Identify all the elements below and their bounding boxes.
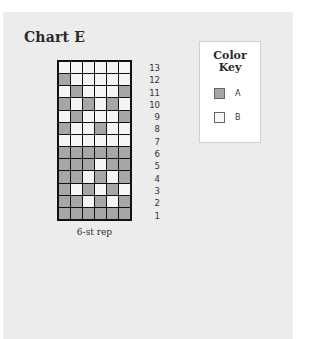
chart-cell [83,74,94,85]
row-number: 7 [140,136,160,148]
chart-cell [95,62,106,73]
chart-cell [59,62,70,73]
chart-cell [95,74,106,85]
chart-cell [59,159,70,170]
row-number: 1 [140,210,160,222]
chart-cell [71,159,82,170]
chart-cell [59,111,70,122]
chart-cell [71,196,82,207]
row-number: 12 [140,74,160,86]
chart-cell [59,98,70,109]
chart-cell [107,62,118,73]
chart-cell [71,135,82,146]
chart-cell [83,135,94,146]
row-number: 2 [140,197,160,209]
chart-cell [59,171,70,182]
chart-cell [119,123,130,134]
chart-cell [83,62,94,73]
color-key: Color Key A B [199,41,261,143]
chart-cell [107,171,118,182]
chart-cell [71,208,82,219]
chart-cell [107,159,118,170]
row-number: 8 [140,123,160,135]
chart-cell [71,86,82,97]
color-key-title: Color Key [200,50,260,74]
chart-cell [95,171,106,182]
chart-cell [95,86,106,97]
chart-cell [107,111,118,122]
chart-cell [95,98,106,109]
chart-cell [119,208,130,219]
chart-cell [71,147,82,158]
chart-cell [83,147,94,158]
repeat-caption: 6-st rep [57,227,132,237]
chart-cell [119,98,130,109]
chart-cell [107,196,118,207]
row-number: 4 [140,173,160,185]
chart-cell [59,196,70,207]
chart-cell [119,74,130,85]
chart-cell [95,208,106,219]
chart-cell [83,159,94,170]
swatch-a-icon [214,88,225,99]
chart-cell [107,98,118,109]
knitting-chart-grid [57,60,132,221]
chart-cell [107,184,118,195]
chart-cell [71,123,82,134]
chart-cell [59,184,70,195]
chart-cell [71,98,82,109]
chart-cell [119,147,130,158]
chart-cell [59,86,70,97]
row-number: 11 [140,87,160,99]
chart-cell [95,147,106,158]
chart-cell [107,86,118,97]
row-number: 9 [140,111,160,123]
chart-cell [95,123,106,134]
row-number: 5 [140,160,160,172]
chart-cell [119,62,130,73]
key-label-b: B [235,113,241,122]
chart-cell [59,74,70,85]
chart-cell [71,62,82,73]
chart-cell [119,171,130,182]
chart-cell [107,147,118,158]
key-item-a: A [214,88,240,99]
row-number: 6 [140,148,160,160]
chart-cell [83,171,94,182]
row-numbers: 13121110987654321 [140,62,160,222]
chart-cell [95,111,106,122]
chart-cell [71,171,82,182]
chart-cell [95,184,106,195]
chart-cell [83,123,94,134]
chart-cell [119,159,130,170]
chart-cell [95,159,106,170]
key-label-a: A [235,89,240,98]
row-number: 10 [140,99,160,111]
chart-cell [107,123,118,134]
chart-cell [71,111,82,122]
chart-cell [59,135,70,146]
chart-cell [119,184,130,195]
chart-cell [59,123,70,134]
chart-cell [83,184,94,195]
chart-cell [83,111,94,122]
chart-cell [59,147,70,158]
chart-cell [95,135,106,146]
key-item-b: B [214,112,241,123]
chart-cell [83,98,94,109]
chart-cell [83,86,94,97]
chart-title: Chart E [24,29,85,45]
chart-cell [71,74,82,85]
chart-cell [119,135,130,146]
swatch-b-icon [214,112,225,123]
chart-cell [119,111,130,122]
chart-cell [107,208,118,219]
row-number: 3 [140,185,160,197]
chart-cell [119,86,130,97]
chart-cell [95,196,106,207]
chart-cell [107,135,118,146]
chart-cell [59,208,70,219]
chart-cell [83,208,94,219]
chart-cell [83,196,94,207]
row-number: 13 [140,62,160,74]
